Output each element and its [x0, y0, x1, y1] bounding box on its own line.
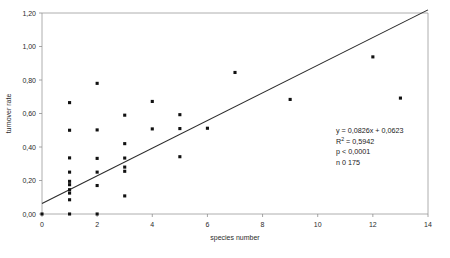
- x-tick-label: 6: [205, 221, 209, 228]
- annotation-p-value: p < 0,0001: [336, 147, 370, 156]
- x-axis-title: species number: [210, 234, 260, 242]
- data-point: [40, 212, 43, 215]
- data-point: [68, 212, 71, 215]
- data-point: [96, 171, 99, 174]
- data-point: [68, 192, 71, 195]
- data-point: [96, 212, 99, 215]
- scatter-plot-figure: 0,000,200,400,600,801,001,2002468101214s…: [0, 0, 450, 258]
- y-tick-label: 1,00: [22, 43, 36, 50]
- data-point: [123, 157, 126, 160]
- trend-line: [42, 10, 428, 204]
- annotation-equation: y = 0,0826x + 0,0623: [336, 126, 404, 135]
- x-tick-label: 12: [369, 221, 377, 228]
- data-point: [68, 129, 71, 132]
- x-tick-label: 4: [150, 221, 154, 228]
- y-tick-label: 0,80: [22, 77, 36, 84]
- data-point: [178, 113, 181, 116]
- data-point: [289, 98, 292, 101]
- y-tick-label: 0,00: [22, 211, 36, 218]
- data-point: [68, 101, 71, 104]
- y-tick-label: 0,20: [22, 177, 36, 184]
- data-point: [233, 71, 236, 74]
- annotation-r-squared: R2 = 0,5942: [336, 136, 374, 146]
- x-tick-label: 8: [261, 221, 265, 228]
- data-point: [206, 127, 209, 130]
- data-point: [178, 155, 181, 158]
- data-point: [68, 180, 71, 183]
- chart-canvas: 0,000,200,400,600,801,001,2002468101214s…: [0, 0, 450, 258]
- data-point: [96, 128, 99, 131]
- annotation-n-value: n 0 175: [336, 158, 360, 167]
- x-tick-label: 14: [424, 221, 432, 228]
- y-tick-label: 0,40: [22, 144, 36, 151]
- y-tick-label: 1,20: [22, 10, 36, 17]
- data-point: [96, 82, 99, 85]
- x-tick-label: 0: [40, 221, 44, 228]
- data-point: [123, 170, 126, 173]
- data-point: [123, 142, 126, 145]
- x-tick-label: 2: [95, 221, 99, 228]
- data-point: [178, 127, 181, 130]
- data-point: [151, 100, 154, 103]
- x-tick-label: 10: [314, 221, 322, 228]
- data-point: [151, 127, 154, 130]
- data-point: [371, 55, 374, 58]
- data-point: [123, 166, 126, 169]
- data-point: [68, 188, 71, 191]
- plot-frame: [42, 13, 428, 214]
- data-point: [68, 198, 71, 201]
- data-point: [68, 171, 71, 174]
- data-point: [123, 114, 126, 117]
- data-point: [399, 97, 402, 100]
- y-tick-label: 0,60: [22, 110, 36, 117]
- data-point: [96, 157, 99, 160]
- data-point: [68, 183, 71, 186]
- y-axis-title: turnover rate: [5, 94, 12, 134]
- data-point: [96, 184, 99, 187]
- data-point: [68, 156, 71, 159]
- data-point: [123, 194, 126, 197]
